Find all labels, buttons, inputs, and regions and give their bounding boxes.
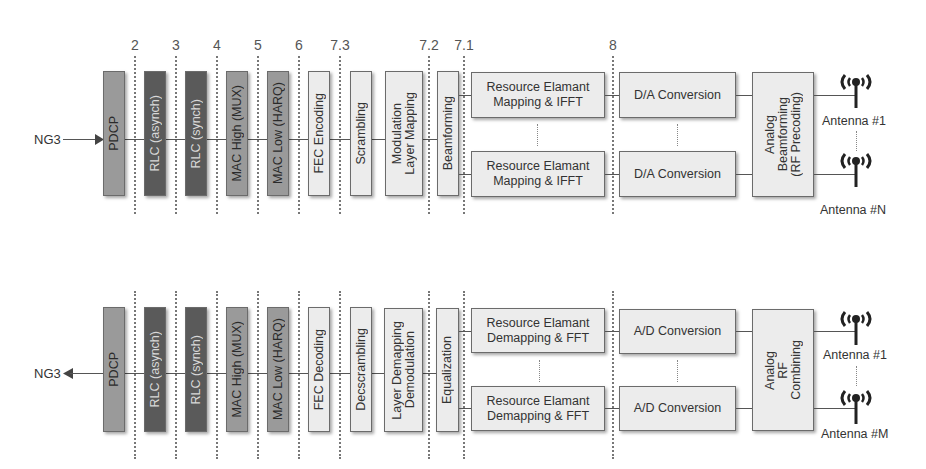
block-fec-decoding: FEC Decoding xyxy=(308,307,330,432)
split-label-7-3: 7.3 xyxy=(330,37,349,53)
block-label: Resource Elamant xyxy=(487,316,590,331)
antenna-label-n: Antenna #N xyxy=(820,203,886,217)
branch-line xyxy=(736,408,752,409)
antenna-icon xyxy=(836,307,876,345)
branch-line xyxy=(605,331,619,332)
split-label-2: 2 xyxy=(131,37,139,53)
block-equalization: Equalization xyxy=(436,308,459,432)
block-label: D/A Conversion xyxy=(634,167,721,182)
split-line xyxy=(463,291,465,459)
ng3-label: NG3 xyxy=(34,132,61,147)
split-line xyxy=(463,56,465,214)
ellipsis-dots xyxy=(677,124,678,146)
block-label: RF xyxy=(777,362,790,379)
block-mac-high: MAC High (MUX) xyxy=(226,307,248,432)
split-line xyxy=(298,291,300,459)
antenna-icon xyxy=(836,70,876,108)
antenna-label-m: Antenna #M xyxy=(821,427,888,441)
block-fec-encoding: FEC Encoding xyxy=(308,71,330,196)
block-label: Resource Elamant xyxy=(487,159,590,174)
block-label: Equalization xyxy=(441,336,454,404)
block-scrambling: Scrambling xyxy=(350,71,372,196)
branch-line xyxy=(736,331,752,332)
block-label: MAC Low (HARQ) xyxy=(272,82,285,184)
branch-line xyxy=(459,174,471,175)
block-label: Combining xyxy=(790,340,803,400)
branch-line xyxy=(459,408,471,409)
block-da-conversion-1: D/A Conversion xyxy=(619,72,736,118)
block-label: Demapping & FFT xyxy=(487,331,589,346)
block-pdcp: PDCP xyxy=(103,71,125,196)
block-label: FEC Decoding xyxy=(313,329,326,410)
block-ad-conversion-m: A/D Conversion xyxy=(619,386,736,431)
block-re-demapping-1: Resource Elamant Demapping & FFT xyxy=(471,308,605,353)
split-line xyxy=(175,291,177,459)
block-rlc-async: RLC (asynch) xyxy=(144,71,166,196)
block-label: Analog xyxy=(764,351,777,390)
block-label: Beamforming xyxy=(777,97,790,171)
split-label-7-1: 7.1 xyxy=(454,37,473,53)
split-line xyxy=(428,291,430,459)
block-rlc-sync: RLC (synch) xyxy=(185,307,207,432)
block-mac-high: MAC High (MUX) xyxy=(226,71,248,196)
split-line xyxy=(298,56,300,214)
block-rlc-async: RLC (asynch) xyxy=(144,307,166,432)
block-label: Decscrambling xyxy=(355,328,368,411)
block-label: MAC High (MUX) xyxy=(231,85,244,182)
split-line xyxy=(216,291,218,459)
block-demodulation: Layer Demapping Demodulation xyxy=(384,308,423,432)
split-label-4: 4 xyxy=(213,37,221,53)
ellipsis-dots xyxy=(539,360,540,382)
block-descrambling: Decscrambling xyxy=(350,307,372,432)
split-label-7-2: 7.2 xyxy=(419,37,438,53)
block-mac-low: MAC Low (HARQ) xyxy=(267,307,289,432)
branch-line xyxy=(605,408,619,409)
antenna-label-1: Antenna #1 xyxy=(822,114,886,128)
branch-line xyxy=(605,174,619,175)
ng3-arrow-line xyxy=(63,139,99,140)
ellipsis-dots xyxy=(856,131,857,151)
block-label: Mapping & IFFT xyxy=(493,95,583,110)
block-label: PDCP xyxy=(108,116,121,151)
split-label-5: 5 xyxy=(254,37,262,53)
split-line xyxy=(134,56,136,214)
block-label: Resource Elamant xyxy=(487,394,590,409)
branch-line xyxy=(459,95,471,96)
block-analog-rf-combining: Analog RF Combining xyxy=(752,309,814,431)
block-label: Demodulation xyxy=(404,331,417,408)
ellipsis-dots xyxy=(537,124,538,146)
block-label: PDCP xyxy=(108,352,121,387)
split-line xyxy=(612,291,614,459)
split-line xyxy=(257,56,259,214)
block-label: MAC High (MUX) xyxy=(231,321,244,418)
ng3-label: NG3 xyxy=(34,366,61,381)
ng3-arrow-line xyxy=(70,373,104,374)
antenna-label-1: Antenna #1 xyxy=(823,348,887,362)
block-label: Analog xyxy=(764,115,777,154)
split-line xyxy=(339,56,341,214)
split-line xyxy=(134,291,136,459)
block-label: D/A Conversion xyxy=(634,88,721,103)
block-ad-conversion-1: A/D Conversion xyxy=(619,309,736,354)
block-label: Layer Mapping xyxy=(404,92,417,175)
block-da-conversion-n: D/A Conversion xyxy=(619,151,736,197)
branch-line xyxy=(459,331,471,332)
block-label: Beamforming xyxy=(442,96,455,170)
split-line xyxy=(612,56,614,214)
block-label: A/D Conversion xyxy=(634,324,722,339)
block-re-mapping-1: Resource Elamant Mapping & IFFT xyxy=(471,72,605,118)
block-label: Layer Demapping xyxy=(391,321,404,420)
ellipsis-dots xyxy=(856,366,857,386)
branch-line xyxy=(605,95,619,96)
block-label: (RF Precoding) xyxy=(790,92,803,177)
split-line xyxy=(428,56,430,214)
block-modulation: Modulation Layer Mapping xyxy=(385,71,423,196)
antenna-icon xyxy=(836,386,876,424)
block-label: Scrambling xyxy=(355,102,368,165)
split-line xyxy=(257,291,259,459)
block-label: Resource Elamant xyxy=(487,80,590,95)
block-beamforming: Beamforming xyxy=(437,71,459,196)
split-label-6: 6 xyxy=(295,37,303,53)
split-line xyxy=(339,291,341,459)
block-label: RLC (asynch) xyxy=(149,331,162,407)
